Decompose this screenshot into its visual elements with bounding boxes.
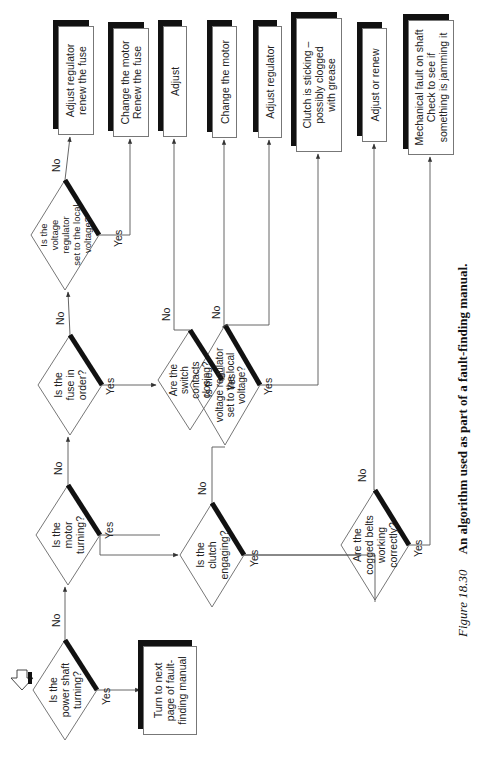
label-yes: Yes [103, 522, 115, 539]
outcome-adjust-regulator-renew-fuse: Adjust regulator renew the fuse [58, 26, 94, 135]
outcome-adjust: Adjust [163, 26, 187, 137]
outcome-clutch-sticking: Clutch is sticking – possibly clogged wi… [296, 18, 342, 152]
decision-clutch-engaging: Is the clutch engaging? [194, 530, 230, 579]
figure-title: An algorithm used as part of a fault-fin… [455, 264, 470, 555]
label-no: No [356, 469, 368, 482]
outcome-change-motor-renew-fuse: Change the motor Renew the fuse [113, 28, 149, 137]
outcome-adjust-regulator: Adjust regulator [258, 26, 282, 138]
decision-fuse-in-order: Is the fuse in order? [52, 370, 88, 401]
label-no: No [54, 312, 66, 325]
flowchart-figure: Is the power shaft turning? Is the motor… [0, 0, 482, 767]
decision-power-shaft: Is the power shaft turning? [47, 663, 83, 717]
label-yes: Yes [412, 540, 424, 557]
outcome-turn-next-page: Turn to next page of fault- finding manu… [143, 646, 197, 735]
outcome-change-motor: Change the motor [212, 26, 237, 138]
label-yes: Yes [225, 374, 237, 391]
decision-motor-turning: Is the motor turning? [50, 516, 86, 554]
start-arrow-icon [11, 670, 33, 690]
outcome-mechanical-fault: Mechanical fault on shaft Check to see i… [408, 20, 454, 155]
label-no: No [50, 614, 62, 627]
label-no: No [196, 482, 208, 495]
label-yes: Yes [248, 550, 260, 567]
label-no: No [210, 306, 222, 319]
label-no: No [160, 308, 172, 321]
outcome-adjust-or-renew: Adjust or renew [362, 28, 387, 142]
label-yes: Yes [104, 378, 116, 395]
label-yes: Yes [100, 688, 112, 705]
figure-number: Figure 18.30 [455, 570, 470, 637]
label-yes: Yes [112, 230, 124, 247]
label-yes: Yes [262, 378, 274, 395]
label-no: No [52, 462, 64, 475]
label-no: No [50, 159, 62, 172]
figure-caption: Figure 18.30 An algorithm used as part o… [455, 264, 471, 637]
decision-cogged-belts: Are the cogged belts working correctly? [351, 515, 399, 575]
decision-voltage-regulator-1: Is the voltage regulator set to the loca… [38, 204, 93, 265]
